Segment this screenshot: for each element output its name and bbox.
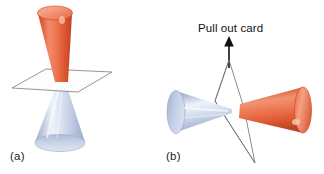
blue-cone-base-ellipse <box>167 91 185 134</box>
panel-a-group <box>12 6 112 152</box>
red-cone-base-ellipse <box>295 87 312 133</box>
arrow-head <box>224 36 234 47</box>
panel-b-group <box>167 36 312 163</box>
figure-canvas: Pull out card (a) (b) <box>0 0 324 174</box>
panel-label-a: (a) <box>10 150 25 162</box>
red-cone-specular-highlight <box>59 16 65 24</box>
red-cone-body <box>239 87 303 133</box>
red-cone-specular-highlight <box>292 119 300 125</box>
panel-b-red-cone <box>239 87 312 133</box>
panel-b-blue-cone <box>167 91 232 134</box>
blue-cone-base-ellipse <box>35 135 85 152</box>
pull-out-arrow <box>224 36 234 68</box>
red-cone-top-ellipse <box>38 6 73 20</box>
figure-illustration <box>0 0 324 174</box>
pull-out-card-label: Pull out card <box>198 22 263 34</box>
panel-a-blue-cone <box>35 84 85 152</box>
panel-label-b: (b) <box>166 150 181 162</box>
